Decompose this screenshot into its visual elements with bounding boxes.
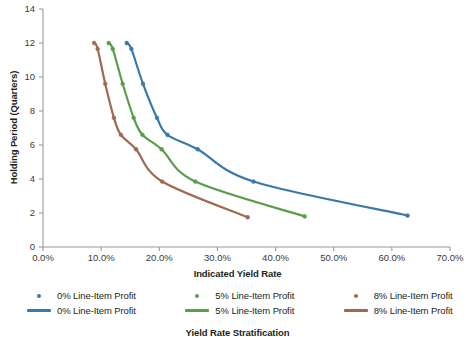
- data-point-marker: [103, 82, 107, 86]
- chart-legend: 0% Line-Item Profit5% Line-Item Profit8%…: [0, 288, 475, 322]
- data-point-marker: [193, 180, 197, 184]
- data-point-marker: [252, 180, 256, 184]
- legend-item-label: 5% Line-Item Profit: [210, 290, 294, 301]
- axis-layer: [39, 9, 450, 251]
- y-axis-tick-label: 0: [9, 241, 35, 252]
- y-axis-title: Holding Period (Quarters): [8, 53, 19, 203]
- series-0: [125, 41, 410, 217]
- data-point-marker: [134, 147, 138, 151]
- chart-caption: Yield Rate Stratification: [0, 327, 475, 337]
- legend-marker-dot-icon: [195, 294, 199, 298]
- data-point-marker: [121, 82, 125, 86]
- data-point-marker: [107, 41, 111, 45]
- data-point-marker: [406, 214, 410, 218]
- x-axis-title: Indicated Yield Rate: [0, 268, 475, 279]
- x-axis-tick-label: 10.0%: [76, 252, 126, 263]
- data-point-marker: [112, 116, 116, 120]
- chart-container: 02468101214 0.0%10.0%20.0%30.0%40.0%50.0…: [0, 0, 475, 337]
- x-axis-tick-label: 20.0%: [134, 252, 184, 263]
- legend-item[interactable]: 0% Line-Item Profit: [0, 303, 158, 318]
- x-axis-tick-label: 40.0%: [251, 252, 301, 263]
- series-line: [127, 43, 408, 216]
- data-point-marker: [132, 116, 136, 120]
- legend-item-label: 8% Line-Item Profit: [369, 290, 453, 301]
- legend-item-label: 8% Line-Item Profit: [369, 305, 453, 316]
- x-axis-tick-label: 30.0%: [192, 252, 242, 263]
- data-point-marker: [303, 215, 307, 219]
- series-line: [94, 43, 247, 217]
- x-axis-tick-label: 60.0%: [367, 252, 417, 263]
- legend-item[interactable]: 5% Line-Item Profit: [158, 288, 316, 303]
- x-axis-tick-label: 70.0%: [425, 252, 475, 263]
- legend-marker-dot-icon: [37, 294, 41, 298]
- legend-item[interactable]: 0% Line-Item Profit: [0, 288, 158, 303]
- data-point-marker: [129, 47, 133, 51]
- data-point-marker: [119, 133, 123, 137]
- y-axis-tick-label: 12: [9, 37, 35, 48]
- legend-marker-dot-icon: [354, 294, 358, 298]
- data-point-marker: [141, 82, 145, 86]
- legend-item[interactable]: 5% Line-Item Profit: [158, 303, 316, 318]
- data-point-marker: [196, 147, 200, 151]
- legend-marker-line-icon: [185, 309, 209, 312]
- data-point-marker: [111, 47, 115, 51]
- series-layer: [92, 41, 409, 219]
- data-point-marker: [125, 41, 129, 45]
- legend-item-label: 5% Line-Item Profit: [210, 305, 294, 316]
- data-point-marker: [160, 147, 164, 151]
- x-axis-tick-label: 0.0%: [18, 252, 68, 263]
- data-point-marker: [92, 41, 96, 45]
- legend-item[interactable]: 8% Line-Item Profit: [317, 288, 475, 303]
- data-point-marker: [160, 180, 164, 184]
- data-point-marker: [155, 116, 159, 120]
- plot-area: [0, 0, 475, 337]
- legend-item[interactable]: 8% Line-Item Profit: [317, 303, 475, 318]
- legend-row-lines: 0% Line-Item Profit5% Line-Item Profit8%…: [0, 303, 475, 318]
- legend-row-markers: 0% Line-Item Profit5% Line-Item Profit8%…: [0, 288, 475, 303]
- legend-item-label: 0% Line-Item Profit: [52, 290, 136, 301]
- y-axis-tick-label: 14: [9, 3, 35, 14]
- data-point-marker: [141, 133, 145, 137]
- legend-marker-line-icon: [344, 309, 368, 312]
- y-axis-tick-label: 2: [9, 207, 35, 218]
- data-point-marker: [166, 133, 170, 137]
- x-axis-tick-label: 50.0%: [309, 252, 359, 263]
- data-point-marker: [246, 215, 250, 219]
- legend-marker-line-icon: [27, 309, 51, 312]
- legend-item-label: 0% Line-Item Profit: [52, 305, 136, 316]
- data-point-marker: [96, 47, 100, 51]
